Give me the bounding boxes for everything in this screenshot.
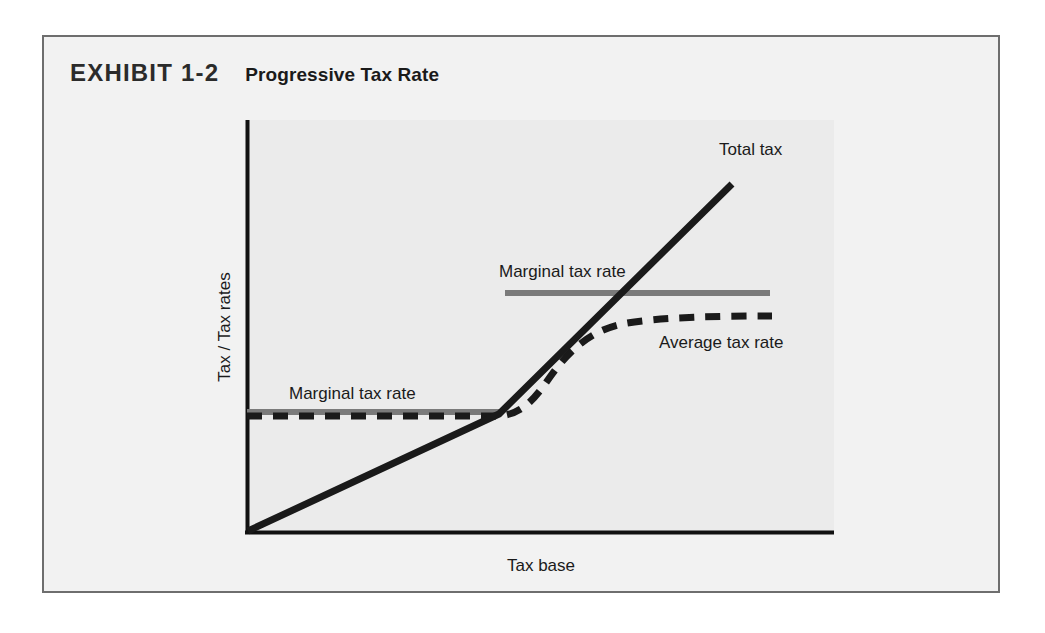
total-tax-label: Total tax: [719, 140, 783, 159]
marginal-tax-rate-upper-label: Marginal tax rate: [499, 262, 626, 281]
marginal-tax-rate-lower-label: Marginal tax rate: [289, 384, 416, 403]
average-tax-rate-label: Average tax rate: [659, 333, 783, 352]
y-axis-title: Tax / Tax rates: [215, 272, 234, 381]
progressive-tax-rate-chart: Total tax Marginal tax rate Marginal tax…: [44, 37, 1002, 595]
plot-background: [247, 120, 834, 534]
x-axis-title: Tax base: [507, 556, 575, 575]
exhibit-frame: EXHIBIT 1-2 Progressive Tax Rate Total t…: [42, 35, 1000, 593]
